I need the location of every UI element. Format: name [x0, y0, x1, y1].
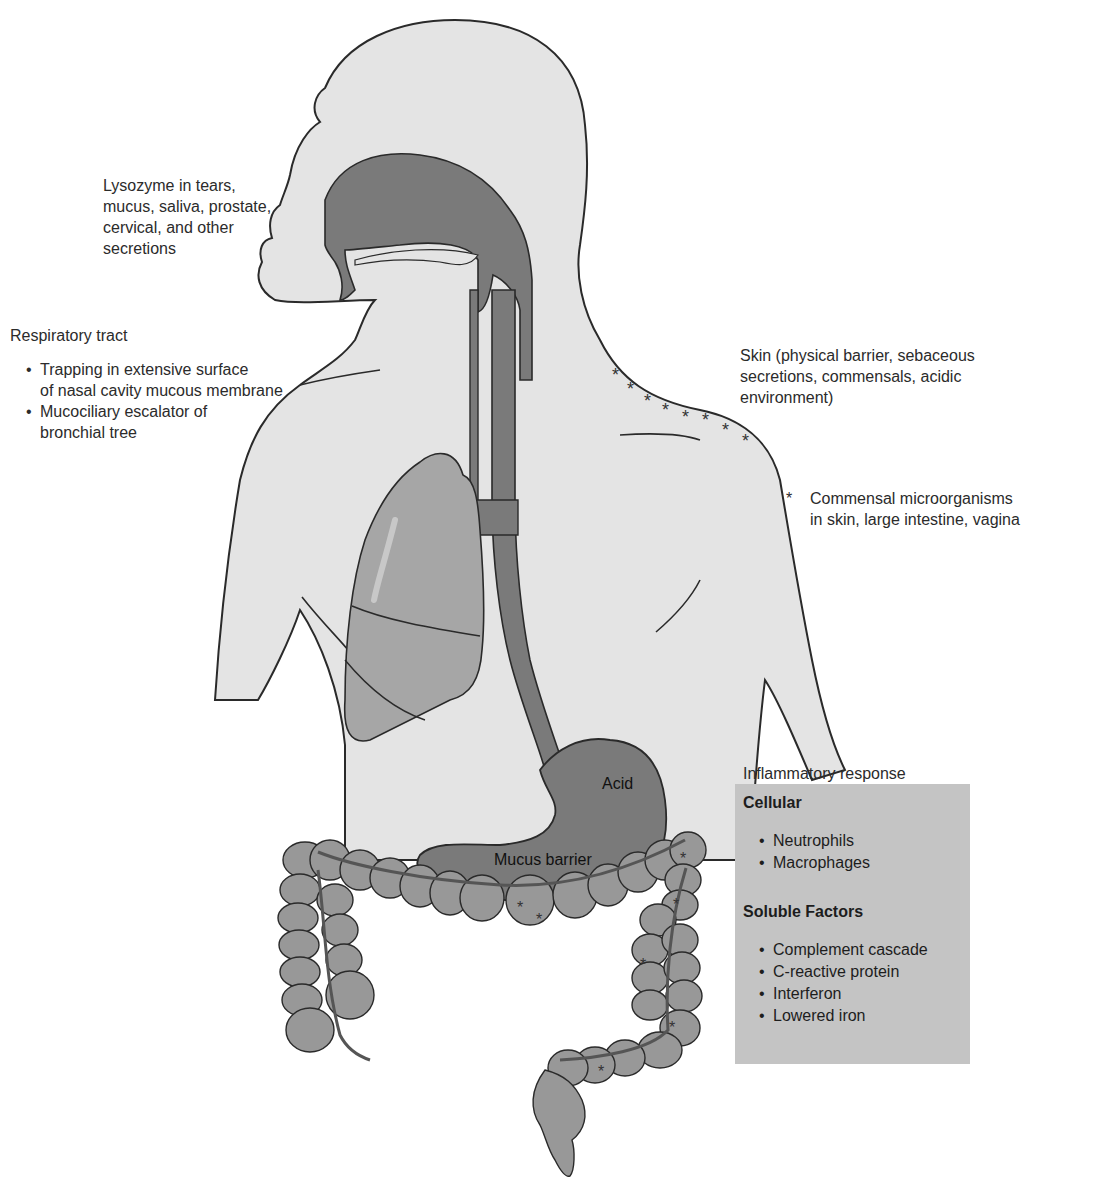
commensal-line: Commensal microorganisms: [806, 488, 1020, 509]
lysozyme-line: Lysozyme in tears,: [103, 175, 271, 196]
svg-text:*: *: [673, 896, 679, 913]
skin-line: Skin (physical barrier, sebaceous: [740, 345, 975, 366]
star-icon: *: [627, 380, 634, 398]
respiratory-item-line: of nasal cavity mucous membrane: [40, 380, 283, 401]
body-silhouette: [215, 20, 845, 860]
skin-line: secretions, commensals, acidic: [740, 366, 975, 387]
mucus-barrier-label: Mucus barrier: [494, 849, 592, 870]
respiratory-item: Mucociliary escalator of bronchial tree: [26, 401, 283, 443]
lysozyme-line: cervical, and other: [103, 217, 271, 238]
cellular-item: Neutrophils: [759, 830, 870, 852]
soluble-factor-item: Lowered iron: [759, 1005, 928, 1027]
respiratory-item-line: Trapping in extensive surface: [40, 359, 283, 380]
star-icon: *: [612, 366, 619, 384]
svg-text:*: *: [669, 1019, 675, 1036]
svg-text:*: *: [536, 911, 542, 928]
star-icon: *: [644, 392, 651, 410]
lysozyme-line: secretions: [103, 238, 271, 259]
lysozyme-label: Lysozyme in tears, mucus, saliva, prosta…: [103, 175, 271, 259]
skin-line: environment): [740, 387, 975, 408]
skin-label: Skin (physical barrier, sebaceous secret…: [740, 345, 975, 408]
star-icon: *: [786, 488, 792, 509]
soluble-factors-heading: Soluble Factors: [743, 903, 863, 921]
respiratory-item-line: Mucociliary escalator of: [40, 401, 283, 422]
star-icon: *: [662, 401, 669, 419]
cellular-item: Macrophages: [759, 852, 870, 874]
soluble-factor-item: C-reactive protein: [759, 961, 928, 983]
inflammatory-response-title: Inflammatory response: [743, 763, 906, 784]
respiratory-item: Trapping in extensive surface of nasal c…: [26, 359, 283, 401]
star-icon: *: [742, 432, 749, 450]
lysozyme-line: mucus, saliva, prostate,: [103, 196, 271, 217]
soluble-factor-item: Interferon: [759, 983, 928, 1005]
respiratory-item-line: bronchial tree: [40, 422, 283, 443]
soluble-factor-item: Complement cascade: [759, 939, 928, 961]
star-icon: *: [722, 421, 729, 439]
cellular-heading: Cellular: [743, 794, 802, 812]
svg-text:*: *: [680, 850, 686, 867]
respiratory-tract-list: Trapping in extensive surface of nasal c…: [26, 359, 283, 443]
star-icon: *: [682, 408, 689, 426]
acid-label: Acid: [602, 773, 633, 794]
commensal-line: in skin, large intestine, vagina: [806, 509, 1020, 530]
cellular-list: Neutrophils Macrophages: [759, 830, 870, 874]
star-icon: *: [702, 411, 709, 429]
commensal-legend: * Commensal microorganisms in skin, larg…: [806, 488, 1020, 530]
svg-text:*: *: [640, 956, 646, 973]
soluble-factors-list: Complement cascade C-reactive protein In…: [759, 939, 928, 1027]
svg-text:*: *: [517, 899, 523, 916]
svg-text:*: *: [598, 1063, 604, 1080]
respiratory-tract-title: Respiratory tract: [10, 325, 127, 346]
inflammatory-response-box: Cellular Neutrophils Macrophages Soluble…: [735, 784, 970, 1064]
